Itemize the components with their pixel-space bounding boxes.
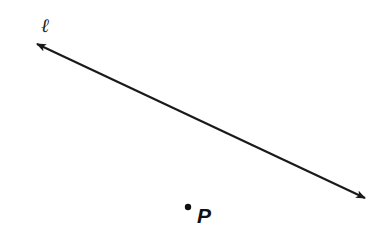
point-label: P	[197, 204, 212, 227]
geometry-diagram: ℓ P	[0, 0, 385, 234]
point-p-dot	[185, 204, 191, 210]
line-l	[37, 44, 365, 198]
point-p: P	[185, 204, 212, 227]
line-label: ℓ	[41, 14, 49, 36]
line-l-segment	[37, 44, 365, 198]
